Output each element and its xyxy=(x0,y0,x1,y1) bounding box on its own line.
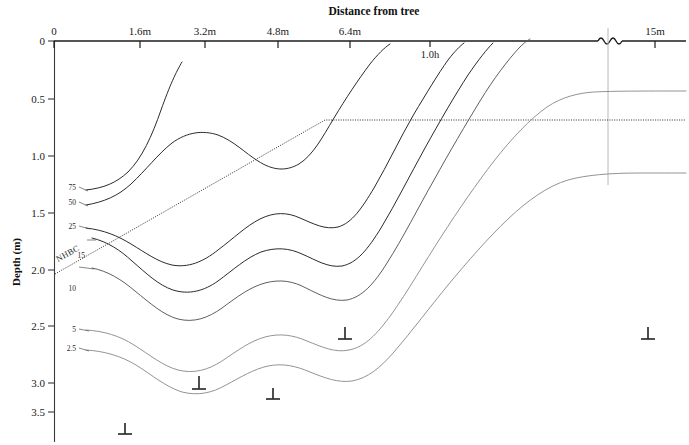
chart-canvas: Distance from tree 0 0.5 1.0 1.5 2.0 2.5… xyxy=(0,0,689,445)
contour-label-5: 5 xyxy=(72,325,76,334)
contour-label-2-5: 2.5 xyxy=(67,344,77,353)
y-tick-label-3-0: 3.0 xyxy=(31,377,45,389)
contour-label-50: 50 xyxy=(69,198,77,207)
y-tick-label-0-5: 0.5 xyxy=(31,93,45,105)
y-tick-label-1-5: 1.5 xyxy=(31,207,45,219)
figure-background xyxy=(0,0,689,445)
x-tick-label-6-4m: 6.4m xyxy=(339,25,362,37)
tree-height-label: 1.0h xyxy=(421,49,440,60)
chart-title: Distance from tree xyxy=(329,5,420,17)
x-tick-label-3-2m: 3.2m xyxy=(194,25,217,37)
y-tick-label-2-0: 2.0 xyxy=(31,264,45,276)
x-tick-label-0: 0 xyxy=(51,25,57,37)
y-tick-label-0: 0 xyxy=(40,35,46,47)
y-tick-label-2-5: 2.5 xyxy=(31,320,45,332)
soil-moisture-deficit-figure: Distance from tree 0 0.5 1.0 1.5 2.0 2.5… xyxy=(0,0,689,445)
contour-label-25: 25 xyxy=(69,222,77,231)
x-tick-label-15m: 15m xyxy=(645,25,665,37)
contour-label-75: 75 xyxy=(69,183,77,192)
x-tick-label-4-8m: 4.8m xyxy=(267,25,290,37)
contour-label-15: 15 xyxy=(78,251,86,260)
y-tick-label-1-0: 1.0 xyxy=(31,150,45,162)
y-axis-title: Depth (m) xyxy=(10,238,23,286)
y-tick-label-3-5: 3.5 xyxy=(31,406,45,418)
contour-label-10: 10 xyxy=(69,284,77,293)
x-tick-label-1-6m: 1.6m xyxy=(129,25,152,37)
